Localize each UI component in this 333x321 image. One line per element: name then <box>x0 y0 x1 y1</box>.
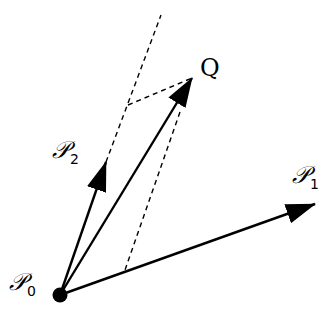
vector-q-arrow <box>60 78 192 295</box>
label-p0: 𝒫0 <box>9 270 36 294</box>
label-p1-main: 𝒫 <box>292 161 309 189</box>
q-parallel-p2-dashed-line <box>125 112 180 270</box>
label-p0-main: 𝒫 <box>9 268 26 296</box>
label-q-main: Q <box>200 54 220 82</box>
label-p2-subscript: 2 <box>70 151 79 167</box>
vector-p1-arrow <box>60 204 315 295</box>
label-p0-subscript: 0 <box>27 283 36 299</box>
label-q: Q <box>200 56 220 80</box>
label-p2: 𝒫2 <box>52 138 79 162</box>
label-p2-main: 𝒫 <box>52 136 69 164</box>
p2-extension-dashed-line <box>106 15 161 162</box>
origin-point-p0 <box>53 288 68 303</box>
label-p1-subscript: 1 <box>310 176 319 192</box>
vector-diagram <box>0 0 333 321</box>
label-p1: 𝒫1 <box>292 163 319 187</box>
